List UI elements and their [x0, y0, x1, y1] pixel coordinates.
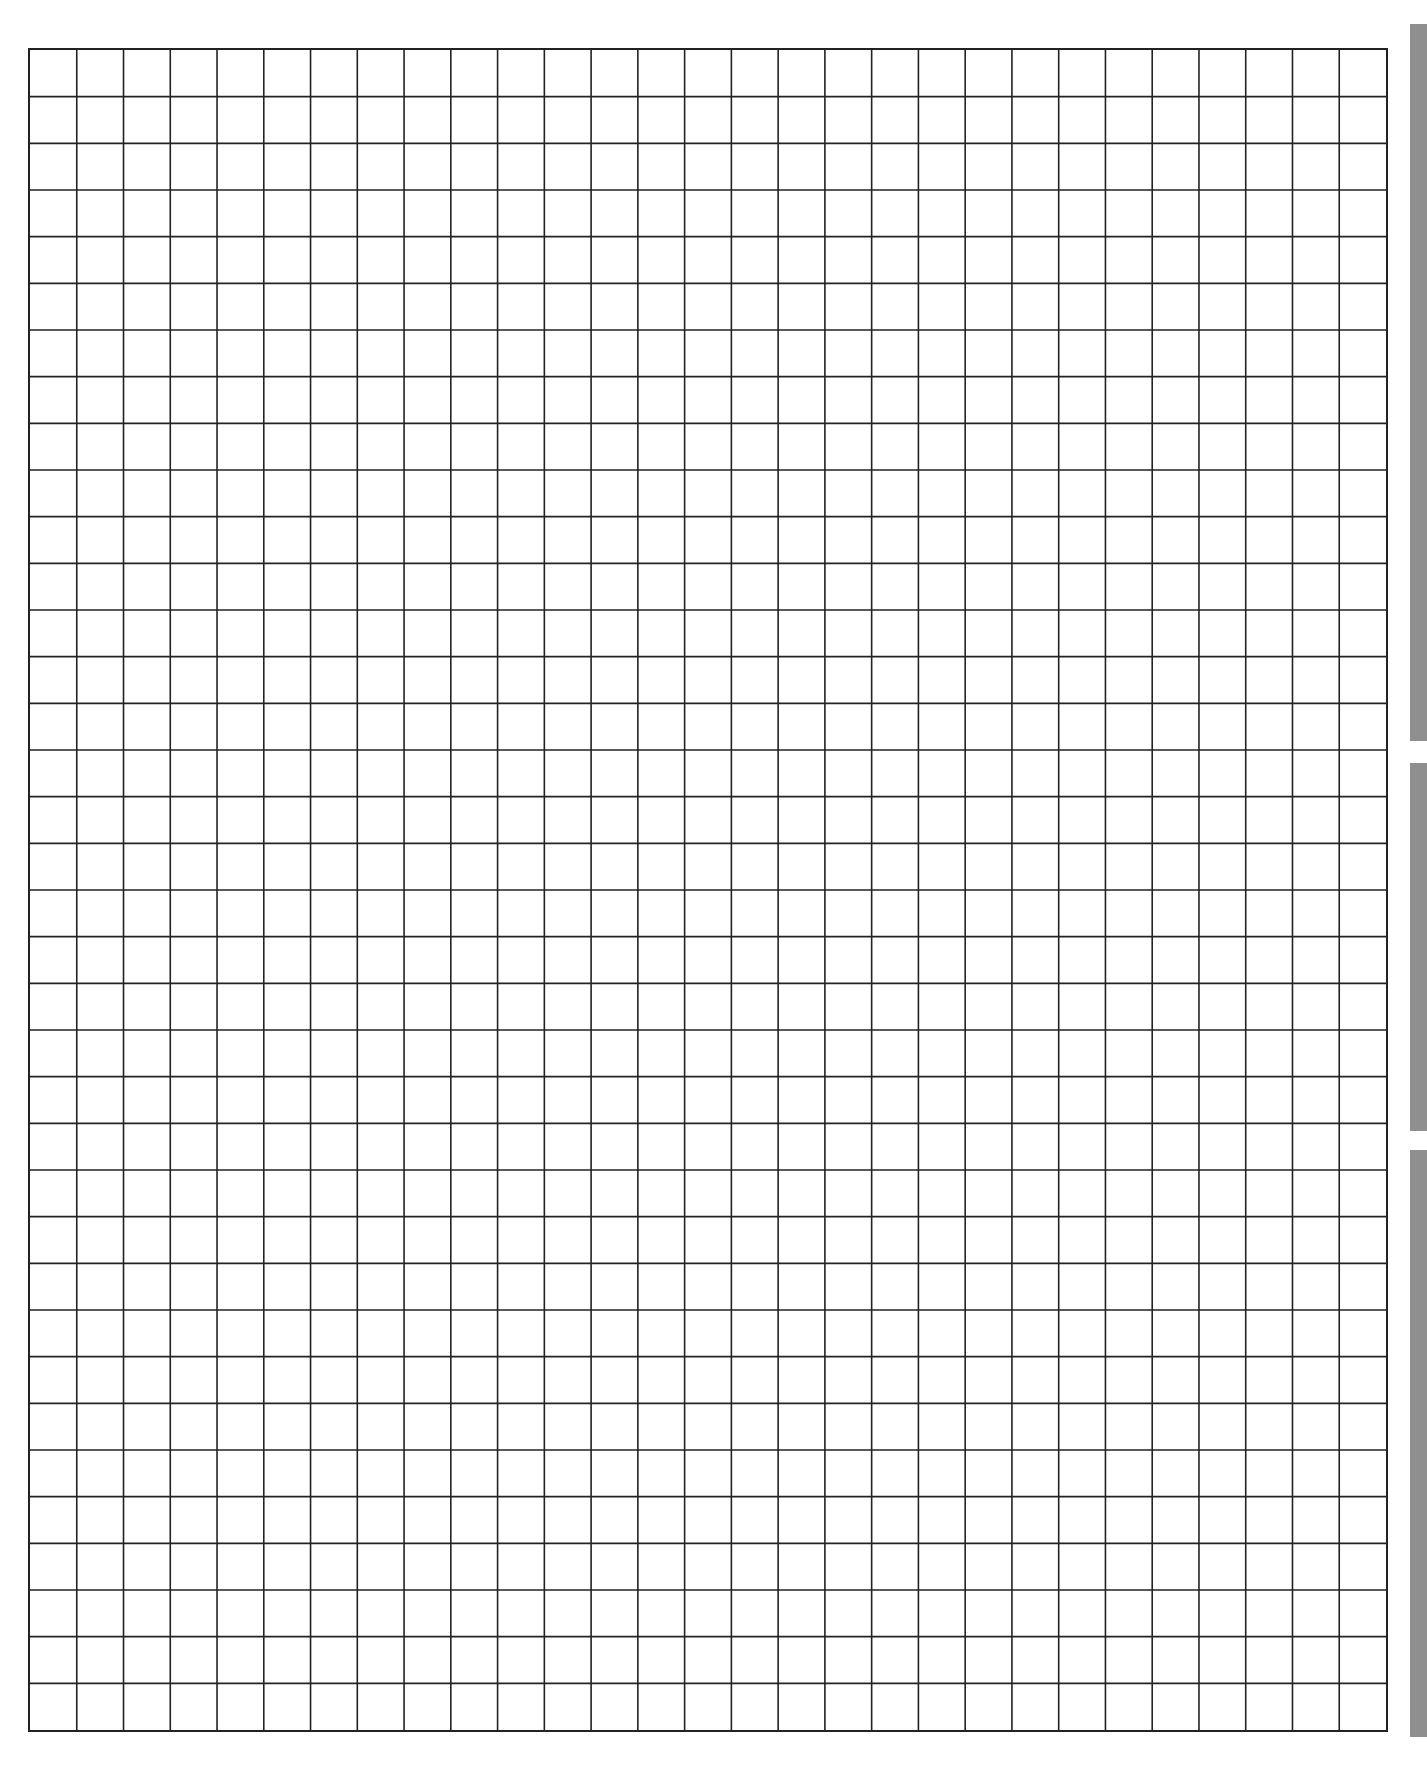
side-tab-1: [1410, 24, 1427, 741]
graph-paper-grid: [28, 48, 1388, 1732]
side-tab-2: [1410, 763, 1427, 1131]
grid-lines: [30, 50, 1386, 1730]
side-tab-3: [1410, 1150, 1427, 1737]
